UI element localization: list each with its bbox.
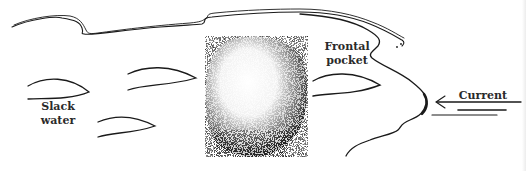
diagram-drawing [0, 0, 526, 171]
fish-icon [28, 79, 89, 99]
slack-water-label-line2: water [38, 114, 78, 128]
rock-boulder [206, 37, 307, 157]
page-edge-shadow [522, 0, 526, 171]
frontal-pocket-label-line1: Frontal [322, 40, 372, 54]
fish-icon [128, 68, 196, 90]
current-label: Current [458, 89, 508, 103]
frontal-pocket-label-line2: pocket [322, 54, 372, 68]
fish-icon [313, 74, 380, 96]
fish-icon [98, 117, 155, 137]
slack-water-label: Slack water [38, 100, 78, 128]
stream-diagram: Frontal pocket Slack water Current [0, 0, 526, 171]
slack-water-label-line1: Slack [38, 100, 78, 114]
frontal-pocket-label: Frontal pocket [322, 40, 372, 68]
